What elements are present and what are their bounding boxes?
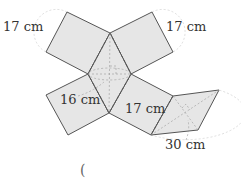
label-top-right-edge: 17 cm bbox=[166, 19, 206, 34]
label-right-rhombus-diagonal: 30 cm bbox=[165, 137, 205, 152]
label-rhombus-diagonal: 16 cm bbox=[60, 92, 100, 107]
label-lower-right-edge: 17 cm bbox=[125, 101, 165, 116]
answer-parenthesis: ( bbox=[80, 162, 85, 178]
label-top-left-edge: 17 cm bbox=[3, 19, 43, 34]
net-diagram: 17 cm 17 cm 16 cm 17 cm 30 cm ( bbox=[0, 0, 241, 188]
